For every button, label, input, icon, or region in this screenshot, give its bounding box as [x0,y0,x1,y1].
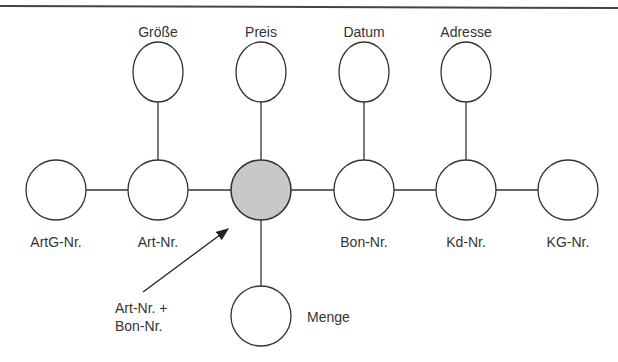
node-kd [436,160,496,220]
node-art [128,160,188,220]
node-kg [538,160,598,220]
annotation-line1: Art-Nr. + [115,300,168,316]
node-groesse [133,42,183,102]
label-bon: Bon-Nr. [340,234,387,250]
node-artg [26,160,86,220]
label-adresse: Adresse [440,24,491,40]
node-adresse [441,42,491,102]
node-bon [334,160,394,220]
node-menge [231,286,291,346]
label-kd: Kd-Nr. [446,234,486,250]
label-artg: ArtG-Nr. [30,234,81,250]
node-preis [236,42,286,102]
node-fact [231,160,291,220]
label-menge: Menge [307,309,350,325]
label-groesse: Größe [138,24,178,40]
label-preis: Preis [245,24,277,40]
node-datum [339,42,389,102]
label-datum: Datum [343,24,384,40]
label-art: Art-Nr. [138,234,178,250]
annotation-line2: Bon-Nr. [115,318,162,334]
label-kg: KG-Nr. [547,234,590,250]
diagram-canvas [0,0,618,362]
top-border-line [0,6,618,8]
